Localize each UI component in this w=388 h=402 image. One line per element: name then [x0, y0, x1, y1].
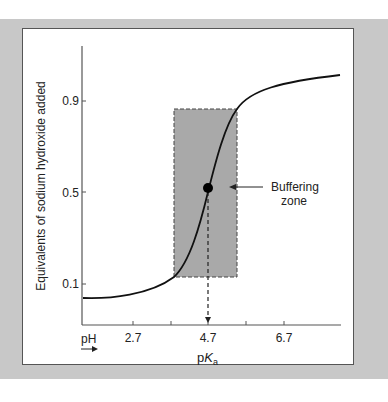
- annotation-buffering: Buffering: [271, 180, 319, 194]
- y-tick-label-0.9: 0.9: [62, 94, 79, 108]
- x-tick-label-2.7: 2.7: [125, 331, 142, 345]
- pka-sub: a: [213, 357, 218, 367]
- y-tick-label-0.1: 0.1: [62, 277, 79, 291]
- x-axis-label-pka: pKa: [197, 350, 218, 367]
- x-tick-label-6.7: 6.7: [276, 331, 293, 345]
- annotation-zone: zone: [281, 194, 307, 208]
- titration-chart: Buffering zone 0.9 0.5 0.1 2.7 4.7 6.7 p…: [0, 0, 388, 402]
- buffering-zone-region: [174, 109, 237, 277]
- x-tick-label-4.7: 4.7: [200, 331, 217, 345]
- y-tick-label-0.5: 0.5: [62, 186, 79, 200]
- y-axis-label: Equivalents of sodium hydroxide added: [34, 81, 48, 290]
- x-axis-label-ph: pH: [81, 332, 96, 346]
- pka-marker-dot: [203, 183, 213, 193]
- ph-arrow-head-icon: [92, 346, 98, 352]
- pka-arrow-head-icon: [205, 317, 211, 323]
- pka-p: p: [197, 350, 204, 365]
